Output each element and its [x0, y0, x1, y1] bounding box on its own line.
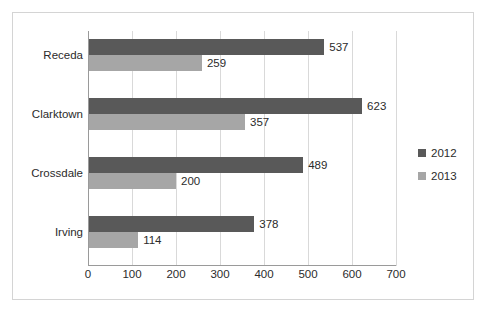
bar-value-label: 114: [143, 232, 161, 248]
x-axis-line: [88, 265, 396, 266]
bar-value-label: 623: [367, 98, 386, 114]
y-axis-category-label: Irving: [55, 225, 83, 239]
y-axis-category-label: Clarktown: [32, 107, 83, 121]
bar-value-label: 200: [181, 173, 200, 189]
bar: [89, 157, 303, 173]
gridline: [396, 31, 397, 266]
x-axis-tick-label: 500: [298, 268, 317, 280]
x-axis-tick-label: 300: [210, 268, 229, 280]
legend-item[interactable]: 2012: [418, 141, 470, 164]
bar-value-label: 489: [308, 157, 327, 173]
legend-label: 2012: [431, 147, 457, 159]
legend-swatch-icon: [418, 172, 426, 180]
x-axis-tick-label: 400: [254, 268, 273, 280]
bar-value-label: 537: [329, 39, 348, 55]
bar: [89, 114, 245, 130]
bar: [89, 173, 176, 189]
x-axis-tick-label: 700: [386, 268, 405, 280]
y-axis-category-label: Crossdale: [31, 166, 83, 180]
bar: [89, 232, 138, 248]
gridline: [352, 31, 353, 266]
chart-frame: RecedaClarktownCrossdaleIrving 537259623…: [12, 12, 474, 300]
bar: [89, 98, 362, 114]
bar: [89, 39, 324, 55]
x-axis-tick-label: 200: [166, 268, 185, 280]
x-axis-tick-labels: 0100200300400500600700: [88, 268, 396, 288]
y-axis-category-label: Receda: [43, 48, 83, 62]
bar: [89, 216, 254, 232]
bar: [89, 55, 202, 71]
x-axis-tick-label: 100: [122, 268, 141, 280]
x-axis-tick-label: 0: [85, 268, 91, 280]
legend-item[interactable]: 2013: [418, 164, 470, 187]
legend-swatch-icon: [418, 149, 426, 157]
legend: 20122013: [418, 141, 470, 187]
chart-title: [13, 1, 473, 11]
x-axis-tick-label: 600: [342, 268, 361, 280]
gridline: [308, 31, 309, 266]
y-axis-category-labels: RecedaClarktownCrossdaleIrving: [13, 31, 83, 266]
bar-value-label: 357: [250, 114, 269, 130]
legend-label: 2013: [431, 170, 457, 182]
bar-value-label: 259: [207, 55, 226, 71]
bar-value-label: 378: [259, 216, 278, 232]
plot-area: 537259623357489200378114: [88, 31, 396, 266]
